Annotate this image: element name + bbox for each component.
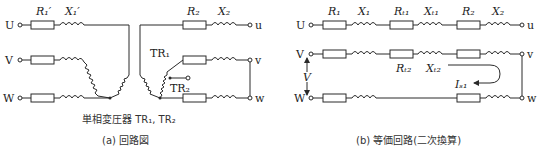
svg-text:w: w xyxy=(527,92,537,105)
resistor-R1p-V xyxy=(31,56,54,64)
label-R2-b: R₂ xyxy=(461,5,475,18)
svg-text:w: w xyxy=(255,92,265,105)
label-X1p: X₁′ xyxy=(64,5,80,18)
secondary-winding-TR1 xyxy=(140,75,160,98)
resistor-R1p-U xyxy=(31,21,54,29)
inductor-X2-V xyxy=(486,52,510,55)
svg-text:u: u xyxy=(255,19,262,32)
inductor-X2-w xyxy=(212,96,236,99)
tap-terminal xyxy=(186,76,190,80)
transformer-label: 単相変圧器 TR₁, TR₂ xyxy=(82,113,176,125)
svg-text:V: V xyxy=(4,54,14,67)
terminal-U-b: U xyxy=(296,19,313,32)
resistor-R2-b xyxy=(457,21,480,29)
inductor-X2-u xyxy=(212,23,236,26)
inductor-Xt2 xyxy=(418,52,442,55)
terminal-V-b: V xyxy=(295,48,313,61)
inductor-Xt1 xyxy=(418,23,442,26)
label-X2: X₂ xyxy=(217,5,230,18)
caption-b: (b) 等価回路(二次換算) xyxy=(356,134,461,146)
inductor-X2-W xyxy=(486,96,510,99)
circuit-diagram-a: U V W R₁′ X₁′ xyxy=(3,5,265,146)
label-R1: R₁ xyxy=(327,5,341,18)
inductor-X1-V xyxy=(352,52,376,55)
svg-text:W: W xyxy=(294,92,306,105)
label-Rt2: Rₜ₂ xyxy=(395,62,411,75)
inductor-X1p-U xyxy=(60,23,84,26)
resistor-R1-W xyxy=(323,94,346,102)
label-Is1: Iₛ₁ xyxy=(454,78,467,91)
terminal-U: U xyxy=(5,19,22,32)
inductor-X1-W xyxy=(352,96,376,99)
resistor-R2-u xyxy=(183,21,206,29)
resistor-R2-W xyxy=(457,94,480,102)
circuit-figure: U V W R₁′ X₁′ xyxy=(0,0,546,150)
svg-text:u: u xyxy=(527,19,534,32)
caption-a: (a) 回路図 xyxy=(102,134,149,146)
resistor-Rt1 xyxy=(390,21,413,29)
inductor-X2-b xyxy=(486,23,510,26)
equivalent-circuit-b: U V W R₁ X₁ Rₜ₁ Xₜ₁ R₂ X₂ xyxy=(294,5,537,146)
label-R2: R₂ xyxy=(186,5,200,18)
label-Rt1: Rₜ₁ xyxy=(393,5,409,18)
inductor-X1p-V xyxy=(60,58,84,63)
inductor-X1 xyxy=(352,23,376,26)
svg-text:U: U xyxy=(296,19,305,32)
svg-text:v: v xyxy=(526,48,534,61)
label-TR1: TR₁ xyxy=(150,47,170,60)
resistor-R2-w xyxy=(183,94,206,102)
label-Xt1: Xₜ₁ xyxy=(423,5,439,18)
label-V: V xyxy=(303,71,312,84)
terminal-u-b: u xyxy=(520,19,534,32)
primary-winding-TR2 xyxy=(110,75,129,98)
label-R1p: R₁′ xyxy=(35,5,52,18)
label-TR2: TR₂ xyxy=(170,82,190,95)
terminal-W: W xyxy=(3,92,22,105)
svg-text:U: U xyxy=(5,19,14,32)
resistor-R2-v xyxy=(183,56,206,64)
label-X1: X₁ xyxy=(357,5,370,18)
resistor-R1-V xyxy=(323,50,346,58)
resistor-Rt2 xyxy=(390,50,413,58)
inductor-X2-v xyxy=(212,58,236,61)
terminal-w: w xyxy=(248,92,265,105)
resistor-R1p-W xyxy=(31,94,54,102)
svg-text:v: v xyxy=(254,54,262,67)
resistor-R2-V xyxy=(457,50,480,58)
terminal-w-b: w xyxy=(520,92,537,105)
terminal-W-b: W xyxy=(294,92,313,105)
primary-winding-TR1 xyxy=(84,62,110,98)
inductor-X1p-W xyxy=(60,96,84,99)
label-Xt2: Xₜ₂ xyxy=(425,62,441,75)
resistor-R1 xyxy=(323,21,346,29)
label-X2-b: X₂ xyxy=(491,5,504,18)
svg-text:V: V xyxy=(295,48,305,61)
svg-text:W: W xyxy=(3,92,15,105)
terminal-V: V xyxy=(4,54,22,67)
terminal-u: u xyxy=(248,19,262,32)
